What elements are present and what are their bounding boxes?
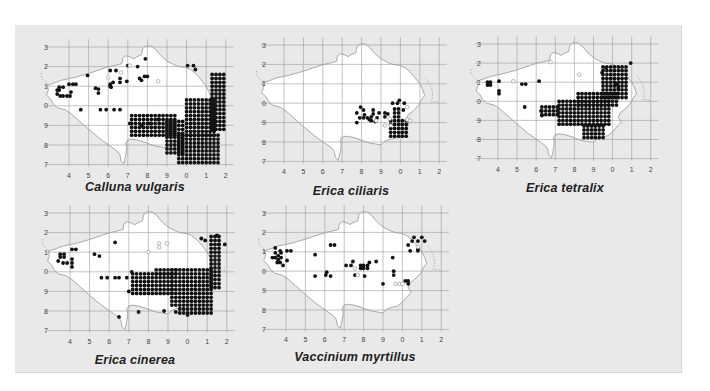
svg-text:0: 0 <box>400 336 404 343</box>
svg-text:2: 2 <box>262 229 266 236</box>
svg-text:5: 5 <box>303 336 307 343</box>
map-caption: Vaccinium myrtillus <box>294 350 415 364</box>
svg-text:6: 6 <box>323 336 327 343</box>
svg-text:4: 4 <box>284 336 288 343</box>
svg-text:0: 0 <box>262 268 266 275</box>
svg-text:8: 8 <box>262 307 266 314</box>
svg-text:7: 7 <box>342 336 346 343</box>
svg-text:1: 1 <box>420 336 424 343</box>
svg-text:8: 8 <box>362 336 366 343</box>
svg-text:2: 2 <box>439 336 443 343</box>
svg-text:9: 9 <box>262 287 266 294</box>
svg-text:3: 3 <box>262 210 266 217</box>
svg-text:9: 9 <box>381 336 385 343</box>
svg-text:1: 1 <box>262 248 266 255</box>
svg-text:7: 7 <box>262 326 266 333</box>
